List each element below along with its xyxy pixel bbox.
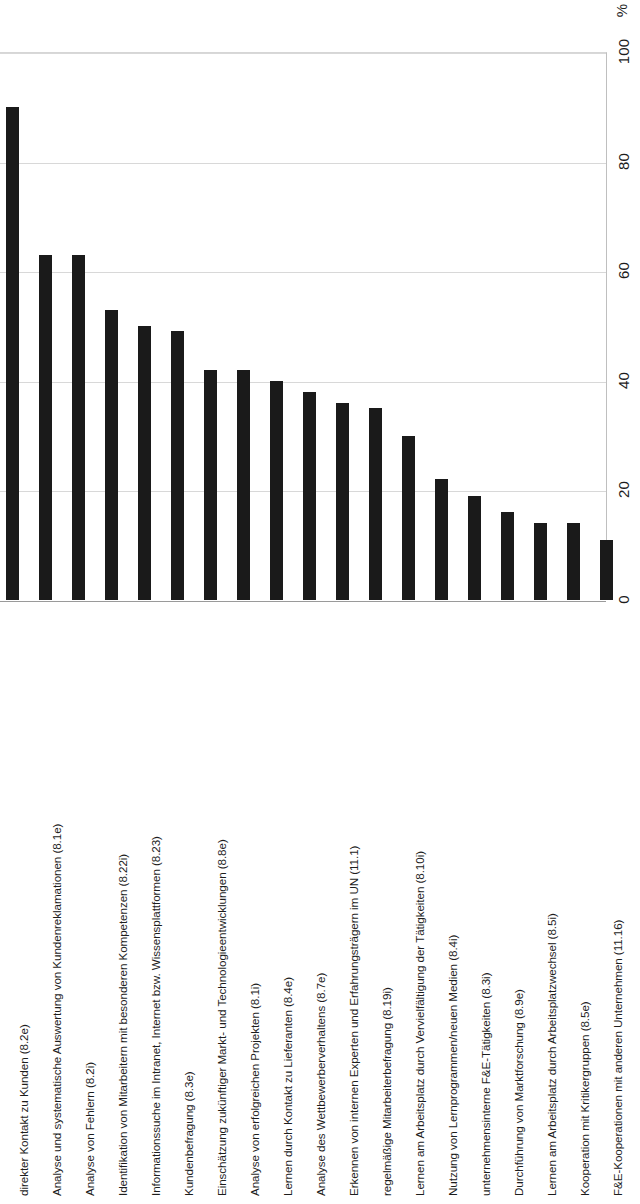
category-axis: direkter Kontakt zu Kunden (8.2e)Analyse… (0, 604, 640, 1204)
y-tick-label-20: 20 (615, 473, 632, 506)
category-label: Nutzung von Lernprogrammen/neuen Medien … (446, 935, 459, 1196)
category-label: Kooperation mit Kritikergruppen (8.5e) (578, 1001, 591, 1196)
bar (501, 512, 514, 600)
category-label: direkter Kontakt zu Kunden (8.2e) (17, 1024, 30, 1196)
y-tick-label-80: 80 (615, 145, 632, 178)
category-label: regelmäßige Mitarbeiterbefragung (8.19i) (380, 987, 393, 1196)
bar (567, 523, 580, 600)
bars-group (0, 53, 606, 600)
bar (204, 370, 217, 600)
category-label: Analyse des Wettbewerberverhaltens (8.7e… (314, 973, 327, 1196)
plot-area (0, 52, 607, 600)
y-tick-label-100: 100 (615, 35, 632, 68)
bar (534, 523, 547, 600)
category-label: Lernen durch Kontakt zu Lieferanten (8.4… (281, 977, 294, 1196)
bar (6, 107, 19, 600)
category-label: Lernen am Arbeitsplatz durch Arbeitsplat… (545, 913, 558, 1196)
gridline-0 (0, 601, 606, 602)
bar (468, 496, 481, 600)
category-label: Analyse von erfolgreichen Projekten (8.1… (248, 983, 261, 1196)
category-label: Informationssuche im Intranet, Internet … (149, 836, 162, 1196)
bar (336, 403, 349, 600)
bar (105, 310, 118, 600)
category-label: Analyse und systematische Auswertung von… (50, 824, 63, 1196)
y-tick-label-40: 40 (615, 364, 632, 397)
bar (39, 255, 52, 600)
category-label: Identifikation von Mitarbeitern mit beso… (116, 854, 129, 1196)
bar (369, 408, 382, 600)
y-tick-label-60: 60 (615, 254, 632, 287)
value-axis: 020406080100 (607, 0, 640, 620)
category-label: Erkennen von internen Experten und Erfah… (347, 846, 360, 1196)
bar (270, 381, 283, 600)
category-label: Einschätzung zukünftiger Markt- und Tech… (215, 839, 228, 1196)
bar (435, 479, 448, 600)
bar (303, 392, 316, 600)
chart-page: % 020406080100 direkter Kontakt zu Kunde… (0, 0, 640, 1204)
category-label: unternehmensinterne F&E-Tätigkeiten (8.3… (479, 973, 492, 1196)
bar (138, 326, 151, 600)
bar (237, 370, 250, 600)
bar (171, 331, 184, 600)
category-label: Analyse von Fehlern (8.2i) (83, 1062, 96, 1196)
category-label: Durchführung von Marktforschung (8.9e) (512, 989, 525, 1196)
category-label: F&E-Kooperationen mit anderen Unternehme… (611, 920, 624, 1196)
bar (72, 255, 85, 600)
bar (402, 436, 415, 600)
category-label: Lernen am Arbeitsplatz durch Vervielfält… (413, 851, 426, 1196)
category-label: Kundenbefragung (8.3e) (182, 1071, 195, 1196)
